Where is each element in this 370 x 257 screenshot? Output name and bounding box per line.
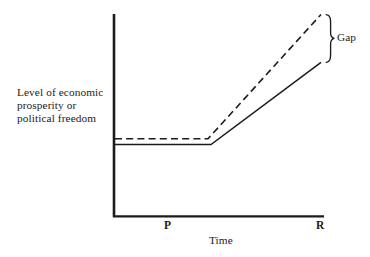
y-axis-label: Level of economic prosperity or politica… — [17, 86, 109, 125]
solid-trajectory-line — [115, 62, 321, 144]
x-axis-label: Time — [209, 234, 233, 247]
gap-brace-icon — [326, 15, 334, 63]
gap-annotation-label: Gap — [337, 31, 356, 44]
x-tick-label-p: P — [164, 219, 171, 232]
x-tick-label-r: R — [316, 219, 324, 232]
dashed-trajectory-line — [115, 15, 321, 139]
chart-figure: Level of economic prosperity or politica… — [0, 0, 370, 257]
chart-plot-area — [0, 0, 370, 257]
